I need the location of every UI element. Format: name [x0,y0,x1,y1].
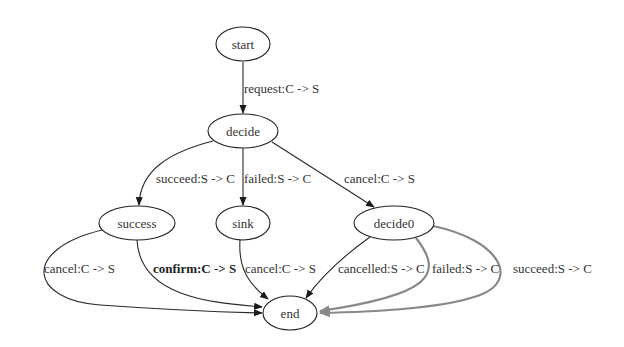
node-end: end [263,296,317,330]
edge-decide-sink: failed:S -> C [243,148,311,205]
node-sink: sink [216,206,270,240]
edge-label: cancel:C -> S [344,171,415,186]
state-diagram: request:C -> S succeed:S -> C failed:S -… [0,0,624,347]
node-label: end [281,306,300,321]
edge-label: failed:S -> C [244,171,311,186]
node-label: decide [226,124,260,139]
edge-label: succeed:S -> C [156,171,235,186]
edge-decide-success: succeed:S -> C [139,141,235,205]
edge-label: failed:S -> C [432,261,499,276]
edge-label: request:C -> S [244,81,319,96]
node-decide: decide [208,114,278,148]
node-label: success [118,216,157,231]
node-decide0: decide0 [354,206,434,240]
node-start: start [216,27,270,61]
edge-label: cancel:C -> S [245,261,316,276]
edge-label: confirm:C -> S [153,261,236,276]
edge-label: cancelled:S -> C [338,261,425,276]
edge-decide0-end-cancelled: cancelled:S -> C [306,237,425,298]
edge-label: cancel:C -> S [44,261,115,276]
edge-start-decide: request:C -> S [243,62,319,113]
edge-label: succeed:S -> C [513,261,592,276]
edge-success-end-confirm: confirm:C -> S [137,240,262,307]
node-label: start [232,37,255,52]
node-label: sink [232,216,254,231]
edge-sink-end: cancel:C -> S [240,240,316,299]
node-success: success [99,206,175,240]
node-label: decide0 [374,216,414,231]
